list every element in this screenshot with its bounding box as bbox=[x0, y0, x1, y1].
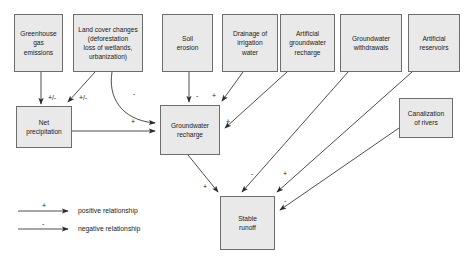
node-artreservoirs: Artificial reservoirs bbox=[408, 14, 460, 72]
node-canalization: Canalization of rivers bbox=[399, 98, 453, 138]
node-gwwithdrawals: Groundwater withdrawals bbox=[340, 14, 402, 72]
legend-label-positive: positive relationship bbox=[78, 207, 138, 215]
edge-label-netprecip-to-gwrecharge: + bbox=[131, 118, 135, 125]
edge-label-soilerosion-to-gwrecharge: - bbox=[196, 92, 198, 99]
node-greenhouse: Greenhouse gas emissions bbox=[14, 14, 63, 72]
edge-landcover-to-gwrecharge bbox=[111, 72, 155, 123]
node-gwrecharge: Groundwater recharge bbox=[160, 105, 220, 155]
edge-label-landcover-to-gwrecharge: - bbox=[133, 90, 135, 97]
causal-diagram: Greenhouse gas emissionsLand cover chang… bbox=[0, 0, 468, 264]
edge-canalization-to-stablerunoff bbox=[280, 128, 399, 210]
edge-label-greenhouse-to-netprecip: +/- bbox=[48, 94, 56, 101]
node-artrecharge: Artificial groundwater recharge bbox=[280, 14, 335, 72]
edge-label-gwwithdrawals-to-stablerunoff: - bbox=[251, 170, 253, 177]
node-drainage: Drainage of irrigation water bbox=[222, 14, 278, 72]
node-landcover: Land cover changes (deforestation loss o… bbox=[73, 14, 143, 72]
legend-sign-positive: + bbox=[42, 202, 46, 209]
legend-label-negative: negative relationship bbox=[78, 225, 140, 233]
edge-label-canalization-to-stablerunoff: - bbox=[284, 197, 286, 204]
legend-sign-negative: - bbox=[42, 220, 44, 227]
edge-label-gwrecharge-to-stablerunoff: + bbox=[203, 183, 207, 190]
edge-label-landcover-to-netprecip: +/- bbox=[79, 94, 87, 101]
node-netprecip: Net precipitation bbox=[16, 106, 72, 148]
edge-drainage-to-gwrecharge bbox=[222, 72, 243, 101]
node-stablerunoff: Stable runoff bbox=[220, 196, 275, 250]
edge-label-artrecharge-to-gwrecharge: + bbox=[226, 118, 230, 125]
edge-label-artreservoirs-to-stablerunoff: + bbox=[283, 170, 287, 177]
node-soilerosion: Soil erosion bbox=[162, 14, 213, 72]
edge-artrecharge-to-gwrecharge bbox=[225, 72, 287, 128]
edge-label-drainage-to-gwrecharge: + bbox=[212, 92, 216, 99]
edge-artreservoirs-to-stablerunoff bbox=[277, 72, 412, 192]
